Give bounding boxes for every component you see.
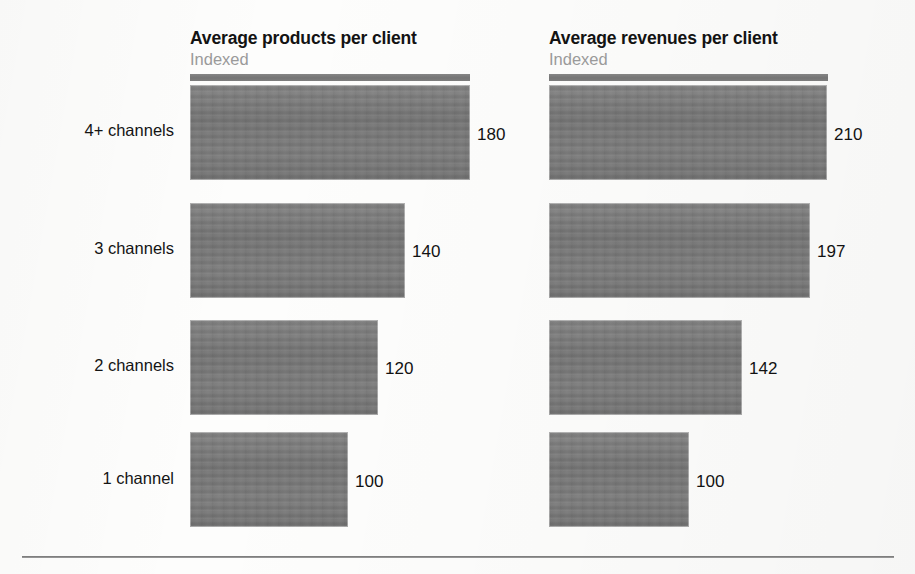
panel-header-products: Average products per client Indexed [190,28,520,81]
bar-revenues-2-channels [549,320,742,415]
panel-title-products: Average products per client [190,28,520,48]
category-label-3-channels: 3 channels [4,239,174,258]
bar-products-3-channels [190,203,405,298]
bar-value-products-3-channels: 140 [412,243,440,260]
bar-value-revenues-3-channels: 197 [817,243,845,260]
bar-value-revenues-1-channel: 100 [696,473,724,490]
panel-subtitle-products: Indexed [190,49,520,69]
bar-revenues-1-channel [549,432,689,527]
panel-header-rule-products [190,74,470,81]
bar-value-products-2-channels: 120 [385,360,413,377]
bar-revenues-3-channels [549,203,810,298]
category-axis: 4+ channels 3 channels 2 channels 1 chan… [0,0,174,574]
chart-figure: Average products per client Indexed Aver… [0,0,915,574]
bar-value-revenues-2-channels: 142 [749,360,777,377]
panel-header-rule-revenues [549,74,828,81]
bar-value-products-4plus-channels: 180 [477,126,505,143]
bar-products-2-channels [190,320,378,415]
footer-divider [22,556,894,558]
bar-products-1-channel [190,432,348,527]
panel-subtitle-revenues: Indexed [549,49,879,69]
category-label-2-channels: 2 channels [4,356,174,375]
panel-header-revenues: Average revenues per client Indexed [549,28,879,81]
category-label-1-channel: 1 channel [4,469,174,488]
bar-revenues-4plus-channels [549,85,827,180]
bar-value-revenues-4plus-channels: 210 [834,126,862,143]
panel-title-revenues: Average revenues per client [549,28,879,48]
bar-products-4plus-channels [190,85,470,180]
category-label-4plus-channels: 4+ channels [4,121,174,140]
bar-value-products-1-channel: 100 [355,473,383,490]
